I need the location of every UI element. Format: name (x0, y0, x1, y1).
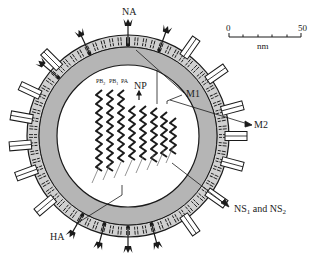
scale-unit: nm (257, 41, 269, 51)
label-pa: PA (121, 78, 129, 84)
label-m2: M2 (254, 119, 268, 130)
label-na: NA (122, 6, 137, 17)
label-ha: HA (50, 231, 65, 242)
matrix-layer-m1 (39, 47, 217, 225)
label-np: NP (134, 80, 147, 91)
label-m1: M1 (186, 88, 200, 99)
scale-end: 50 (298, 23, 308, 33)
svg-text:NS1 and NS2: NS1 and NS2 (234, 203, 287, 216)
influenza-virus-diagram: NA HA M1 M2 NP PB2 PB1 PA NS1 and NS2 0 … (0, 0, 317, 260)
label-ns1-ns2: NS1 and NS2 (234, 203, 287, 216)
scale-start: 0 (226, 23, 231, 33)
scale-bar: 0 50 nm (226, 23, 308, 51)
